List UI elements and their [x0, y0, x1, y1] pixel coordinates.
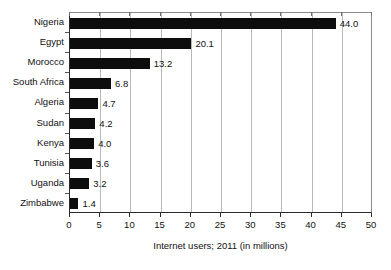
- bar-value-label: 6.8: [115, 78, 128, 89]
- bar-value-label: 20.1: [195, 38, 214, 49]
- category-label-kenya: Kenya: [0, 138, 64, 148]
- y-axis-tick: [65, 113, 69, 114]
- x-axis-title: Internet users; 2011 (in millions): [0, 240, 391, 251]
- x-axis-tick-label: 50: [366, 219, 377, 230]
- bar: [70, 58, 150, 69]
- x-axis-tick-label: 15: [154, 219, 165, 230]
- category-label-uganda: Uganda: [0, 178, 64, 188]
- x-axis-tick-label: 20: [185, 219, 196, 230]
- x-axis-tick-top: [220, 12, 221, 16]
- bar-value-label: 44.0: [340, 18, 359, 29]
- x-axis-tick-top: [341, 12, 342, 16]
- x-axis-tick: [280, 213, 281, 217]
- bar-value-label: 13.2: [154, 58, 173, 69]
- y-axis-tick: [65, 72, 69, 73]
- category-label-sudan: Sudan: [0, 118, 64, 128]
- bar: [70, 18, 336, 29]
- x-axis-tick-label: 0: [66, 219, 71, 230]
- category-label-algeria: Algeria: [0, 97, 64, 107]
- x-axis-tick-label: 10: [124, 219, 135, 230]
- y-axis-tick: [65, 193, 69, 194]
- category-label-south-africa: South Africa: [0, 77, 64, 87]
- bar-value-label: 3.2: [93, 178, 106, 189]
- x-axis-tick-top: [280, 12, 281, 16]
- x-axis-title-text: Internet users; 2011 (in millions): [103, 240, 287, 251]
- x-axis-tick-top: [69, 12, 70, 16]
- bar: [70, 78, 111, 89]
- x-axis-tick: [129, 213, 130, 217]
- x-axis-tick-top: [99, 12, 100, 16]
- category-label-morocco: Morocco: [0, 57, 64, 67]
- x-axis-tick: [99, 213, 100, 217]
- category-label-zimbabwe: Zimbabwe: [0, 198, 64, 208]
- gridline: [342, 13, 343, 212]
- y-axis-tick: [65, 153, 69, 154]
- category-label-egypt: Egypt: [0, 37, 64, 47]
- bar: [70, 38, 191, 49]
- x-axis-tick: [250, 213, 251, 217]
- category-label-nigeria: Nigeria: [0, 17, 64, 27]
- y-axis-tick: [65, 133, 69, 134]
- bar-chart: NigeriaEgyptMoroccoSouth AfricaAlgeriaSu…: [0, 0, 391, 270]
- x-axis-tick-label: 30: [245, 219, 256, 230]
- x-axis-tick-top: [311, 12, 312, 16]
- y-axis-tick: [65, 173, 69, 174]
- x-axis-tick: [190, 213, 191, 217]
- bar: [70, 138, 94, 149]
- bar: [70, 98, 98, 109]
- x-axis-tick: [311, 213, 312, 217]
- x-axis-tick-top: [129, 12, 130, 16]
- bar: [70, 158, 92, 169]
- x-axis-tick: [220, 213, 221, 217]
- x-axis-tick-top: [160, 12, 161, 16]
- x-axis-tick-label: 45: [336, 219, 347, 230]
- x-axis-tick-top: [371, 12, 372, 16]
- x-axis-tick-top: [250, 12, 251, 16]
- bar: [70, 178, 89, 189]
- y-axis-tick: [65, 32, 69, 33]
- x-axis-tick: [69, 213, 70, 217]
- category-axis-labels: NigeriaEgyptMoroccoSouth AfricaAlgeriaSu…: [0, 10, 67, 213]
- x-axis-tick-label: 5: [97, 219, 102, 230]
- bar-value-label: 4.2: [99, 118, 112, 129]
- x-axis-tick-top: [190, 12, 191, 16]
- plot-area: 44.020.113.26.84.74.24.03.63.21.4: [69, 12, 372, 213]
- bar-value-label: 3.6: [96, 158, 109, 169]
- bar-value-label: 4.7: [102, 98, 115, 109]
- gridline: [281, 13, 282, 212]
- bar-value-label: 1.4: [82, 198, 95, 209]
- gridline: [251, 13, 252, 212]
- y-axis-tick: [65, 92, 69, 93]
- gridline: [221, 13, 222, 212]
- bar: [70, 198, 78, 209]
- y-axis-tick: [65, 52, 69, 53]
- x-axis-tick-label: 25: [215, 219, 226, 230]
- category-label-tunisia: Tunisia: [0, 158, 64, 168]
- x-axis-tick-label: 40: [305, 219, 316, 230]
- x-axis-tick: [341, 213, 342, 217]
- x-axis-tick: [371, 213, 372, 217]
- x-axis-tick-label: 35: [275, 219, 286, 230]
- gridline: [312, 13, 313, 212]
- bar: [70, 118, 95, 129]
- x-axis-tick: [160, 213, 161, 217]
- bar-value-label: 4.0: [98, 138, 111, 149]
